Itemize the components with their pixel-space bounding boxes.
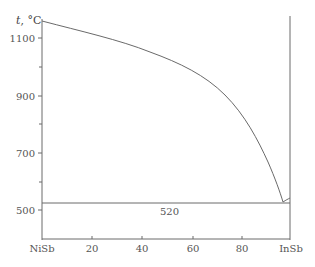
y-tick-500: 500 (16, 205, 35, 216)
eutectic-temp-label: 520 (160, 206, 179, 217)
phase-diagram: 1100 900 700 500 t, °C NiSb 20 40 60 80 … (0, 0, 315, 267)
x-tick-60: 60 (187, 243, 200, 254)
x-tick-nisb: NiSb (29, 243, 54, 254)
x-tick-20: 20 (86, 243, 99, 254)
y-tick-1100: 1100 (10, 33, 35, 44)
x-tick-40: 40 (136, 243, 149, 254)
y-tick-700: 700 (16, 148, 35, 159)
x-tick-80: 80 (236, 243, 249, 254)
y-ticks (38, 38, 42, 210)
insb-liquidus-segment (283, 198, 290, 202)
y-axis-label: t, °C (16, 14, 41, 27)
x-tick-insb: InSb (279, 243, 303, 254)
liquidus-curve (42, 21, 283, 202)
y-tick-900: 900 (16, 91, 35, 102)
